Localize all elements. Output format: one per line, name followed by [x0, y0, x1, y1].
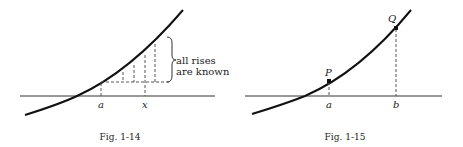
- figure-1-15: P Q a b Fig. 1-15: [245, 10, 442, 142]
- label-b: b: [393, 99, 399, 110]
- label-Q: Q: [388, 13, 396, 24]
- annotation-line1: all rises: [176, 55, 216, 66]
- caption-fig-1-15: Fig. 1-15: [325, 132, 366, 142]
- figure-canvas: all rises are known a x Fig. 1-14 P Q a …: [0, 0, 463, 147]
- figure-1-14: all rises are known a x Fig. 1-14: [20, 10, 230, 142]
- caption-fig-1-14: Fig. 1-14: [100, 132, 141, 142]
- label-P: P: [324, 67, 332, 78]
- label-x: x: [142, 99, 148, 110]
- label-a: a: [326, 99, 332, 110]
- point-P: [327, 79, 331, 83]
- figures-svg: all rises are known a x Fig. 1-14 P Q a …: [0, 0, 463, 147]
- curve: [25, 10, 183, 115]
- label-a: a: [98, 99, 104, 110]
- point-Q: [394, 26, 398, 30]
- brace: [167, 37, 176, 82]
- rise-dashes: [101, 44, 170, 96]
- annotation-line2: are known: [176, 66, 230, 77]
